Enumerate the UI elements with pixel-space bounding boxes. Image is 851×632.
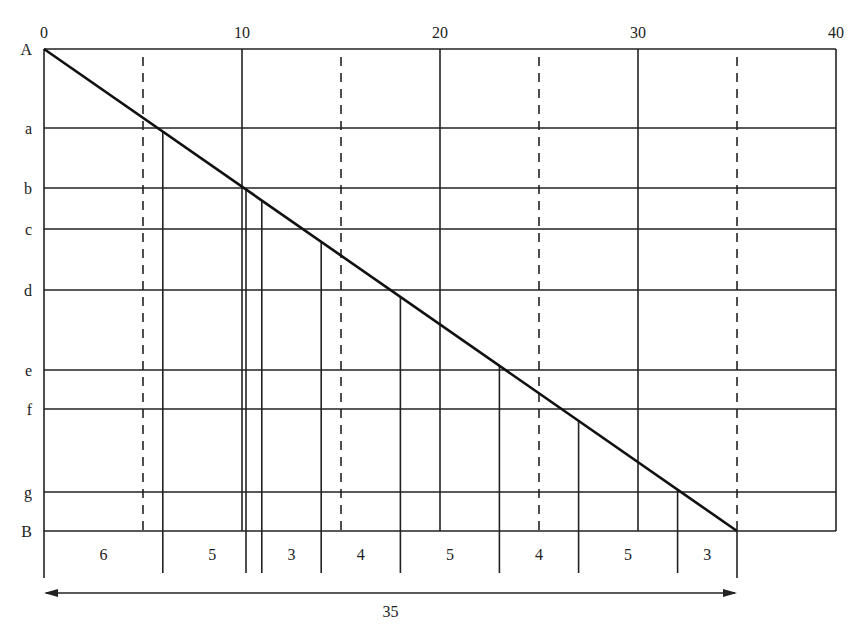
segment-label: 4	[535, 546, 543, 563]
row-label: A	[20, 41, 32, 58]
x-tick-label: 0	[40, 24, 48, 41]
x-tick-label: 30	[630, 24, 646, 41]
x-tick-label: 20	[432, 24, 448, 41]
segment-label: 5	[446, 546, 454, 563]
segment-label: 3	[703, 546, 711, 563]
total-label: 35	[383, 603, 399, 620]
segment-label: 5	[624, 546, 632, 563]
segment-label: 4	[357, 546, 365, 563]
x-axis-labels: 010203040	[40, 24, 844, 41]
x-tick-label: 10	[234, 24, 250, 41]
segment-label: 6	[99, 546, 107, 563]
row-label: f	[27, 401, 33, 418]
row-label: B	[21, 523, 32, 540]
segment-label: 3	[288, 546, 296, 563]
segment-label: 5	[208, 546, 216, 563]
row-label: c	[25, 221, 32, 238]
segment-labels: 65345453	[99, 546, 711, 563]
row-labels: AabcdefgB	[20, 41, 32, 540]
arrow-right-icon	[723, 589, 737, 597]
row-label: g	[24, 484, 32, 502]
row-label: e	[25, 362, 32, 379]
row-label: b	[24, 180, 32, 197]
segment-drop-lines	[163, 132, 737, 578]
diagram-canvas: 010203040 AabcdefgB 65345453 35	[0, 0, 851, 632]
arrow-left-icon	[44, 589, 58, 597]
row-label: a	[25, 120, 32, 137]
total-dimension: 35	[44, 589, 737, 620]
row-label: d	[24, 282, 32, 299]
x-tick-label: 40	[828, 24, 844, 41]
